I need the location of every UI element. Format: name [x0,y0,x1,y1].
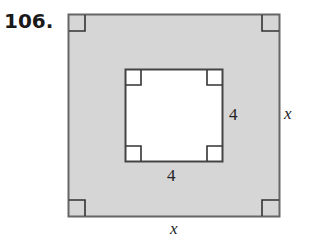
outer-right-label: x [284,104,292,124]
inner-square [126,70,223,162]
inner-bottom-label: 4 [167,166,176,186]
outer-bottom-label: x [170,219,178,239]
inner-right-label: 4 [229,105,238,125]
square-frame-figure [0,0,309,244]
